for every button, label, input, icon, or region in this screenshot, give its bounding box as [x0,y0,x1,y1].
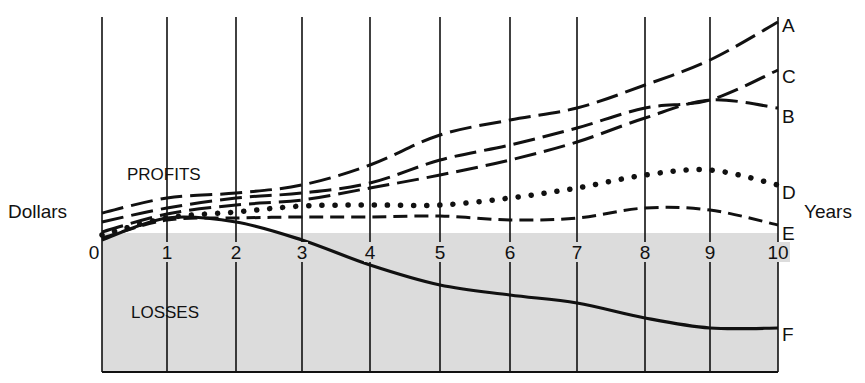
losses-label: LOSSES [131,303,199,322]
tick-label-5: 5 [435,242,446,263]
y-axis-label: Dollars [8,201,67,222]
tick-label-1: 1 [162,242,173,263]
tick-label-10: 10 [767,242,788,263]
x-axis-label: Years [804,201,852,222]
tick-label-9: 9 [705,242,716,263]
profits-label: PROFITS [127,165,201,184]
series-label-C: C [782,66,796,87]
tick-label-8: 8 [640,242,651,263]
tick-label-0: 0 [89,242,100,263]
tick-label-4: 4 [365,242,376,263]
series-labels: ACBDEF [782,15,796,345]
tick-label-2: 2 [231,242,242,263]
profit-loss-chart: 012345678910 ACBDEF Dollars Years PROFIT… [0,0,865,383]
tick-label-6: 6 [505,242,516,263]
series-label-A: A [782,15,795,36]
series-label-B: B [782,106,795,127]
tick-label-7: 7 [572,242,583,263]
series-label-D: D [782,182,796,203]
tick-label-3: 3 [297,242,308,263]
series-label-F: F [782,324,794,345]
series-label-E: E [782,223,795,244]
